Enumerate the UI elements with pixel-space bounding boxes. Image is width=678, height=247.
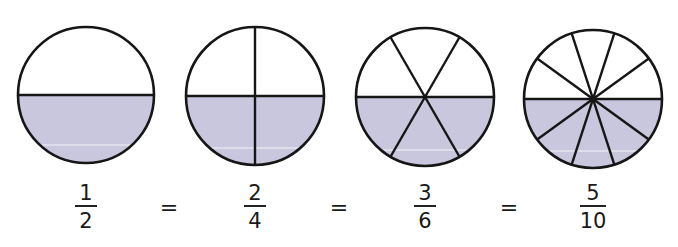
fraction-bar bbox=[580, 205, 606, 207]
equals-sign: = bbox=[159, 197, 179, 219]
equals-sign: = bbox=[329, 197, 349, 219]
denominator: 2 bbox=[66, 211, 106, 233]
center-dot bbox=[590, 96, 597, 103]
denominator: 10 bbox=[573, 211, 613, 233]
fraction-bar bbox=[75, 205, 97, 207]
shaded-region bbox=[354, 98, 496, 171]
circle-three-sixths bbox=[354, 28, 496, 171]
numerator: 1 bbox=[66, 183, 106, 205]
fraction-two-quarters: 2 4 bbox=[235, 183, 275, 233]
equals-sign: = bbox=[499, 197, 519, 219]
denominator: 6 bbox=[405, 211, 445, 233]
numerator: 2 bbox=[235, 183, 275, 205]
fraction-five-tenths: 5 10 bbox=[573, 183, 613, 233]
shaded-region bbox=[16, 94, 156, 166]
circle-two-quarters bbox=[184, 27, 326, 169]
denominator: 4 bbox=[235, 211, 275, 233]
circle-five-tenths bbox=[522, 30, 664, 172]
numerator: 5 bbox=[573, 183, 613, 205]
equivalent-fractions-diagram: 1 2 = 2 4 = 3 6 = 5 10 bbox=[0, 0, 678, 247]
circle-one-half bbox=[16, 27, 156, 166]
numerator: 3 bbox=[405, 183, 445, 205]
fraction-one-half: 1 2 bbox=[66, 183, 106, 233]
fraction-bar bbox=[414, 205, 436, 207]
fraction-three-sixths: 3 6 bbox=[405, 183, 445, 233]
fraction-bar bbox=[244, 205, 266, 207]
